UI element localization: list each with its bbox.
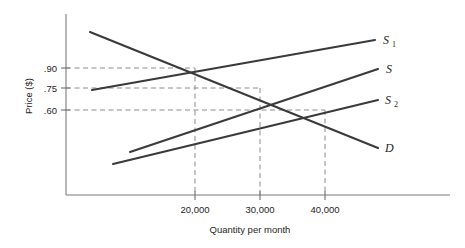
curve-label-d: D bbox=[384, 141, 394, 155]
y-tick-label-60: .60 bbox=[44, 105, 57, 116]
curve-label-s2: S bbox=[385, 93, 391, 107]
curve-label-s1: S bbox=[383, 33, 389, 47]
chart-background bbox=[0, 0, 465, 248]
curve-label-s: S bbox=[386, 62, 392, 76]
x-axis-title: Quantity per month bbox=[210, 224, 291, 235]
x-tick-label-40000: 40,000 bbox=[310, 204, 339, 215]
curve-label-s2-subscript: 2 bbox=[394, 100, 398, 109]
y-tick-label-75: .75 bbox=[44, 83, 57, 94]
curve-label-s1-subscript: 1 bbox=[392, 40, 396, 49]
y-axis-title: Price ($) bbox=[23, 78, 34, 114]
x-tick-label-30000: 30,000 bbox=[245, 204, 274, 215]
supply-demand-chart: .90 .75 .60 20,000 30,000 40,000 Price (… bbox=[0, 0, 465, 248]
chart-canvas: .90 .75 .60 20,000 30,000 40,000 Price (… bbox=[0, 0, 465, 248]
y-tick-label-90: .90 bbox=[44, 63, 57, 74]
x-tick-label-20000: 20,000 bbox=[180, 204, 209, 215]
